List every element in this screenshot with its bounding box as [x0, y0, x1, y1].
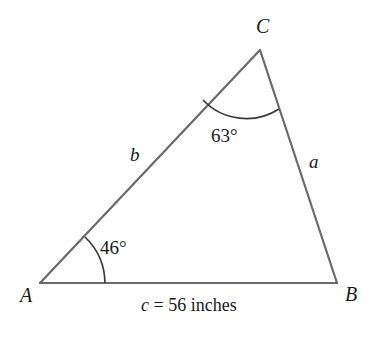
triangle-svg: [0, 0, 375, 337]
base-measure-unit: inches: [191, 295, 237, 315]
vertex-label-a: A: [20, 285, 32, 305]
angle-label-a: 46°: [100, 238, 127, 257]
triangle-figure: A B C a b 46° 63° c = 56 inches: [0, 0, 375, 337]
base-measure-value: 56: [168, 295, 186, 315]
vertex-label-b: B: [345, 284, 357, 304]
side-label-b: b: [130, 145, 140, 164]
base-measure-equals-value-unit: = 56 inches: [149, 295, 237, 315]
side-a-line: [260, 50, 337, 283]
angle-arc-c: [203, 100, 279, 119]
side-label-a: a: [309, 152, 319, 171]
side-b-line: [40, 50, 260, 283]
vertex-label-c: C: [256, 16, 269, 36]
base-measure-equals: =: [154, 295, 164, 315]
angle-label-c: 63°: [211, 126, 238, 145]
base-measure-variable: c: [141, 295, 149, 315]
base-measure-label: c = 56 inches: [141, 296, 237, 314]
